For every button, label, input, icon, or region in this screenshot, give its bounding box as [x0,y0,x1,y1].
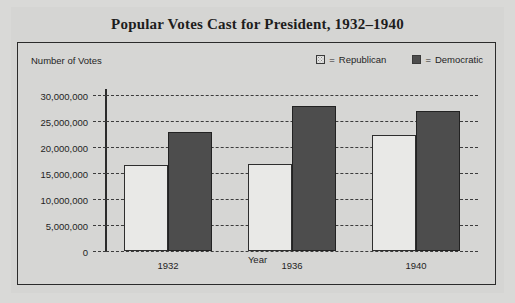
legend-equals-democratic: = [425,54,431,65]
chart-card: Popular Votes Cast for President, 1932–1… [11,7,504,293]
bar-group: 1940 [354,95,478,251]
plot-area: 30,000,00025,000,00020,000,00015,000,000… [106,95,478,251]
y-axis-tick [93,121,106,122]
legend-item-democratic: = Democratic [412,54,483,65]
y-axis-tick-label: 20,000,000 [16,143,88,154]
y-axis-tick [93,251,106,252]
legend-equals-republican: = [329,54,335,65]
bar-republican-1932[interactable] [124,165,168,251]
legend-label-democratic: Democratic [435,54,483,65]
legend-label-republican: Republican [339,54,387,65]
chart-legend: = Republican = Democratic [316,54,483,65]
y-axis-tick [93,95,106,96]
y-axis-tick [93,199,106,200]
bar-republican-1936[interactable] [248,164,292,251]
bar-democratic-1936[interactable] [292,106,336,251]
legend-swatch-democratic-icon [412,55,421,64]
bar-democratic-1940[interactable] [416,111,460,251]
gridline: 0 [106,251,478,252]
page-title: Popular Votes Cast for President, 1932–1… [11,16,504,33]
y-axis-tick [93,225,106,226]
page-root: Popular Votes Cast for President, 1932–1… [0,0,515,303]
bar-democratic-1932[interactable] [168,132,212,251]
bar-groups: 193219361940 [106,95,478,251]
legend-swatch-republican-icon [316,55,325,64]
y-axis-tick-label: 5,000,000 [16,221,88,232]
y-axis-title: Number of Votes [31,55,102,66]
bar-republican-1940[interactable] [372,135,416,251]
y-axis-tick-label: 25,000,000 [16,117,88,128]
y-axis-tick-label: 15,000,000 [16,169,88,180]
x-axis-title: Year [18,254,497,265]
y-axis-tick [93,173,106,174]
y-axis-tick [93,147,106,148]
legend-item-republican: = Republican [316,54,386,65]
bar-group: 1936 [230,95,354,251]
y-axis-tick-label: 10,000,000 [16,195,88,206]
chart-plot-box: Number of Votes = Republican = Democrati… [17,42,496,285]
y-axis-tick-label: 30,000,000 [16,91,88,102]
bar-group: 1932 [106,95,230,251]
